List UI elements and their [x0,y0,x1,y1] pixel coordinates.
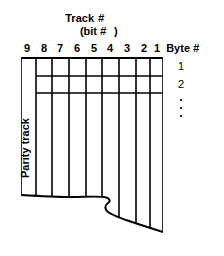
track-number-row: 9 8 7 6 5 4 3 2 1 [24,42,160,54]
title-track-word: Track [65,12,95,24]
tape-torn-bottom-edge [21,195,163,232]
byte-row-separators [36,76,163,93]
byte-header-hash-icon: # [193,42,200,54]
diagram-title: Track # (bit # ) [65,12,118,37]
parity-track-label: Parity track [19,117,31,178]
byte-legend: Byte # 1 2 [166,42,200,117]
title-bit-hash-icon: # [100,25,107,37]
byte-continuation-dots-icon [180,99,182,117]
tape-track-diagram: Track # (bit # ) 9 8 7 6 5 4 3 2 1 [0,0,224,256]
track-number-6: 6 [74,42,80,54]
track-number-7: 7 [57,42,63,54]
track-divider-lines [21,57,163,240]
track-number-8: 8 [41,42,47,54]
diagram-canvas: Track # (bit # ) 9 8 7 6 5 4 3 2 1 [0,0,224,256]
track-number-9: 9 [24,42,30,54]
title-bit-close: ) [114,25,118,37]
byte-number-1: 1 [178,60,184,72]
track-number-2: 2 [141,42,147,54]
byte-number-2: 2 [178,78,184,90]
track-number-3: 3 [124,42,130,54]
track-number-5: 5 [91,42,97,54]
byte-header-label: Byte [166,42,190,54]
title-track-hash-icon: # [98,12,105,24]
track-number-1: 1 [154,42,160,54]
title-bit-open: (bit [80,25,97,37]
track-number-4: 4 [107,42,114,54]
